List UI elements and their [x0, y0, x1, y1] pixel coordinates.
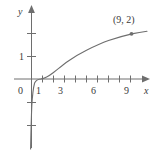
x-axis — [14, 76, 150, 83]
x-axis-label: x — [143, 85, 149, 96]
origin-tick-label: 0 — [18, 85, 23, 96]
log-curve — [31, 31, 147, 149]
x-tick-label-3: 3 — [58, 85, 63, 96]
x-tick-label-1: 1 — [36, 85, 41, 96]
point-annotation-label: (9, 2) — [113, 14, 135, 26]
x-tick-label-9: 9 — [124, 85, 129, 96]
logarithmic-graph-figure: y x 0 1 1 3 6 9 (9, 2) — [0, 0, 156, 154]
plot-svg: y x 0 1 1 3 6 9 (9, 2) — [0, 0, 156, 154]
data-point-marker — [130, 32, 134, 36]
y-tick-label-1: 1 — [19, 51, 24, 62]
x-tick-label-6: 6 — [91, 85, 96, 96]
y-axis-label: y — [17, 6, 23, 17]
